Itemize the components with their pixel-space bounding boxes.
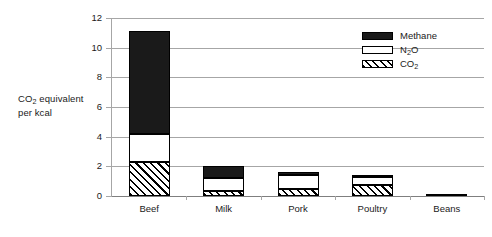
x-tick-mark-2 (335, 196, 336, 200)
bar-segment-beef-co2 (129, 162, 170, 196)
x-axis-label-beans: Beans (410, 203, 484, 214)
x-axis-label-beef: Beef (112, 203, 186, 214)
legend-item-co2: CO2 (362, 57, 437, 70)
x-tick-mark-3 (410, 196, 411, 200)
bar-milk[interactable] (203, 18, 244, 196)
bar-segment-pork-n2o (278, 175, 319, 190)
legend-label-co2: CO2 (400, 58, 418, 70)
y-tick-label-12: 12 (72, 12, 102, 23)
bar-pork[interactable] (278, 18, 319, 196)
bar-beef[interactable] (129, 18, 170, 196)
y-tick-mark-0 (106, 196, 111, 197)
y-tick-label-8: 8 (72, 71, 102, 82)
y-tick-mark-10 (106, 48, 111, 49)
y-tick-label-6: 6 (72, 101, 102, 112)
x-tick-mark-0 (186, 196, 187, 200)
bar-segment-poultry-methane (352, 175, 393, 178)
bar-segment-beef-n2o (129, 134, 170, 162)
legend-swatch-co2-icon (362, 60, 393, 68)
bar-segment-pork-methane (278, 172, 319, 175)
x-axis-line (112, 196, 484, 197)
x-tick-mark-4 (484, 196, 485, 200)
legend-item-n2o: N2O (362, 43, 437, 56)
bar-segment-milk-methane (203, 166, 244, 178)
y-tick-mark-6 (106, 107, 111, 108)
x-tick-mark-1 (261, 196, 262, 200)
x-axis-label-milk: Milk (186, 203, 260, 214)
bar-segment-poultry-co2 (352, 185, 393, 196)
x-axis-label-poultry: Poultry (335, 203, 409, 214)
chart-container: CO2 equivalent per kcal 024681012BeefMil… (0, 0, 492, 237)
legend-swatch-methane-icon (362, 32, 393, 40)
y-tick-mark-2 (106, 166, 111, 167)
legend-swatch-n2o-icon (362, 46, 393, 54)
y-tick-mark-4 (106, 137, 111, 138)
x-axis-label-pork: Pork (261, 203, 335, 214)
legend-label-n2o: N2O (400, 44, 418, 56)
y-tick-label-2: 2 (72, 160, 102, 171)
legend-label-methane: Methane (400, 30, 437, 41)
bar-segment-beef-methane (129, 31, 170, 134)
y-tick-label-10: 10 (72, 42, 102, 53)
legend-item-methane: Methane (362, 29, 437, 42)
bar-segment-pork-co2 (278, 189, 319, 196)
bar-segment-milk-co2 (203, 191, 244, 196)
y-tick-label-4: 4 (72, 131, 102, 142)
bar-segment-beans-co2 (426, 194, 467, 196)
chart-legend: Methane N2O CO2 (362, 29, 437, 71)
bar-segment-poultry-n2o (352, 177, 393, 184)
y-tick-mark-12 (106, 18, 111, 19)
bar-segment-milk-n2o (203, 178, 244, 191)
y-tick-mark-8 (106, 77, 111, 78)
y-tick-label-0: 0 (72, 190, 102, 201)
